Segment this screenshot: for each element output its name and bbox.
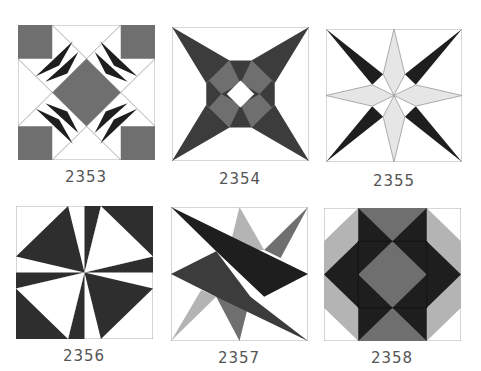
- corner-square-tl: [18, 25, 52, 59]
- quilt-block-2358: [324, 208, 461, 341]
- block-label: 2354: [190, 170, 290, 188]
- quilt-block-2356: [16, 206, 153, 339]
- quilt-block-2355: [326, 29, 462, 162]
- corner-square-br: [121, 126, 155, 160]
- block-label: 2356: [34, 347, 134, 365]
- quilt-block-2353: [18, 25, 155, 160]
- block-label: 2357: [189, 349, 289, 367]
- quilt-block-2357: [171, 207, 308, 341]
- corner-square-bl: [18, 126, 52, 160]
- block-label: 2358: [342, 349, 442, 367]
- block-label: 2353: [36, 168, 136, 186]
- block-label: 2355: [344, 172, 444, 190]
- quilt-block-2354: [172, 27, 309, 161]
- corner-square-tr: [121, 25, 155, 59]
